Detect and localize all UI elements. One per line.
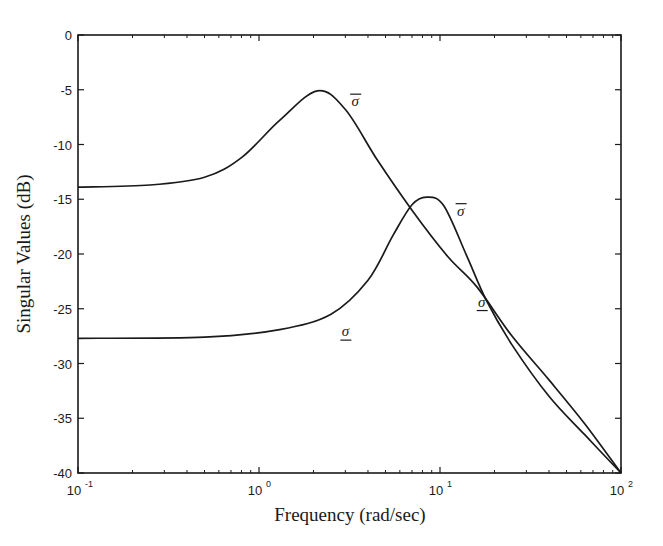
chart-curves [78, 91, 621, 473]
x-tick-label: 10 [429, 483, 443, 498]
sigma-min-label: σ [478, 294, 486, 310]
x-tick-exponent: 0 [266, 479, 271, 489]
y-tick-label: -25 [53, 302, 72, 317]
y-tick-label: -10 [53, 138, 72, 153]
x-tick-exponent: -1 [85, 479, 93, 489]
x-tick-label: 10 [610, 483, 624, 498]
y-tick-label: -20 [53, 247, 72, 262]
y-tick-label: -5 [60, 83, 72, 98]
y-axis-ticks: 0-5-10-15-20-25-30-35-40 [53, 28, 621, 481]
curve-annotations: σσσσ [340, 93, 487, 340]
sigma-min-curve [78, 197, 621, 473]
sigma-max-curve [78, 91, 621, 473]
singular-values-chart: 0-5-10-15-20-25-30-35-40 10-1100101102 σ… [0, 0, 663, 546]
y-axis-title: Singular Values (dB) [13, 174, 35, 333]
sigma-min-label: σ [342, 323, 350, 339]
x-tick-label: 10 [248, 483, 262, 498]
y-tick-label: -15 [53, 192, 72, 207]
x-axis-title: Frequency (rad/sec) [274, 504, 425, 526]
plot-frame [78, 35, 621, 473]
sigma-max-label: σ [351, 93, 359, 109]
y-tick-label: 0 [65, 28, 72, 43]
x-axis-ticks: 10-1100101102 [67, 35, 633, 498]
x-tick-exponent: 2 [628, 479, 633, 489]
x-tick-label: 10 [67, 483, 81, 498]
y-tick-label: -40 [53, 466, 72, 481]
y-tick-label: -30 [53, 357, 72, 372]
sigma-max-label: σ [457, 203, 465, 219]
y-tick-label: -35 [53, 411, 72, 426]
x-tick-exponent: 1 [447, 479, 452, 489]
